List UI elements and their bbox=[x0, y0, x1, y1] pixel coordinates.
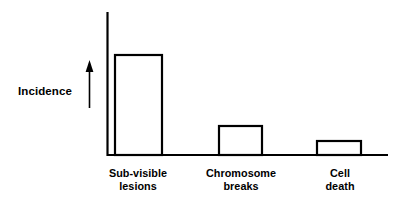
category-label-line-2: lesions bbox=[109, 180, 167, 193]
up-arrow-icon bbox=[86, 60, 94, 108]
category-label-line-1: Sub-visible bbox=[109, 167, 167, 180]
category-label-line-2: breaks bbox=[206, 180, 276, 193]
bar-chart-figure: Incidence Sub-visible lesions Chromosome… bbox=[0, 0, 407, 206]
category-label-line-2: death bbox=[325, 180, 354, 193]
category-label-chromosome-breaks: Chromosome breaks bbox=[206, 167, 276, 193]
category-label-sub-visible-lesions: Sub-visible lesions bbox=[109, 167, 167, 193]
category-label-cell-death: Cell death bbox=[325, 167, 354, 193]
bar-chromosome-breaks bbox=[219, 126, 262, 155]
bar-sub-visible-lesions bbox=[115, 55, 162, 155]
category-label-line-1: Chromosome bbox=[206, 167, 276, 180]
category-label-line-1: Cell bbox=[325, 167, 354, 180]
y-axis-label: Incidence bbox=[18, 86, 72, 98]
bar-cell-death bbox=[317, 141, 361, 155]
